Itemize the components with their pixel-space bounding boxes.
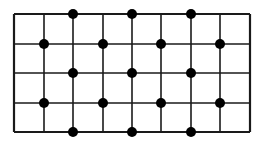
grid-dot: [68, 68, 78, 78]
grid-dot: [127, 127, 137, 137]
grid-dot: [186, 68, 196, 78]
grid-dot: [127, 68, 137, 78]
grid-dot: [39, 39, 49, 49]
grid-dot: [186, 9, 196, 19]
grid-dot: [98, 39, 108, 49]
grid-with-dots-figure: [0, 0, 267, 146]
grid-dot: [98, 98, 108, 108]
grid-dot: [156, 98, 166, 108]
grid-dot: [215, 39, 225, 49]
grid-dot: [68, 9, 78, 19]
grid-dot: [39, 98, 49, 108]
grid-diagram: [0, 0, 267, 146]
grid-dot: [156, 39, 166, 49]
grid-dot: [215, 98, 225, 108]
grid-dot: [186, 127, 196, 137]
grid-dot: [127, 9, 137, 19]
grid-dot: [68, 127, 78, 137]
